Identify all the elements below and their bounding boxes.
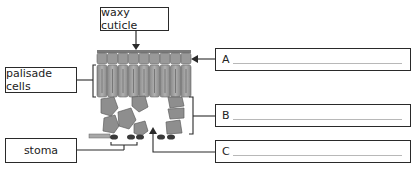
answer-a-line[interactable] [233,63,402,64]
answer-a-letter: A [222,53,230,66]
palisade-cells-label: palisade cells [5,67,77,93]
upper-epidermis [97,53,191,64]
waxy-cuticle-label: waxy cuticle [100,7,169,31]
answer-b-line[interactable] [233,119,402,120]
stoma-text: stoma [24,144,58,157]
waxy-cuticle-arrow [132,30,140,50]
guard-cells [110,134,175,139]
answer-box-b[interactable]: B [215,104,411,127]
answer-box-a[interactable]: A [215,48,411,71]
answer-box-c[interactable]: C [215,140,411,163]
waxy-cuticle-text: waxy cuticle [101,6,168,32]
palisade-bracket [77,65,96,97]
answer-c-line[interactable] [233,155,402,156]
palisade-cells-text: palisade cells [6,67,76,93]
waxy-cuticle-layer [97,50,191,53]
label-b-bracket [189,97,215,134]
label-a-arrow [191,55,215,63]
lower-epidermis [89,134,110,138]
answer-b-letter: B [222,109,230,122]
stoma-bracket [77,142,137,150]
stoma-label: stoma [5,138,77,163]
answer-c-letter: C [222,145,230,158]
spongy-mesophyll [101,96,184,136]
